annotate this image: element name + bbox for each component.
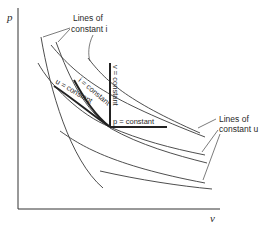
constant-i-leader-3 xyxy=(89,35,93,61)
constant-u-leader-3 xyxy=(203,134,220,180)
constant-u-leader-2 xyxy=(202,130,218,152)
p-v-diagram: p v v = constant i = constant u = consta… xyxy=(0,0,279,228)
p-constant-label: p = constant xyxy=(113,117,155,126)
constant-i-annotation-line2: constant i xyxy=(71,24,107,34)
constant-u-line-mid-1 xyxy=(38,63,205,155)
x-axis-label: v xyxy=(210,212,215,224)
constant-u-annotation-line2: constant u xyxy=(219,124,258,134)
y-axis-label: p xyxy=(6,11,13,23)
constant-i-leader-1 xyxy=(43,28,70,37)
v-constant-label: v = constant xyxy=(111,65,120,107)
constant-i-leader-2 xyxy=(58,29,70,42)
constant-u-annotation-line1: Lines of xyxy=(219,114,249,124)
constant-u-leader-1 xyxy=(198,119,216,128)
constant-i-annotation-line1: Lines of xyxy=(73,13,103,23)
constant-u-line-low-2 xyxy=(100,171,212,189)
